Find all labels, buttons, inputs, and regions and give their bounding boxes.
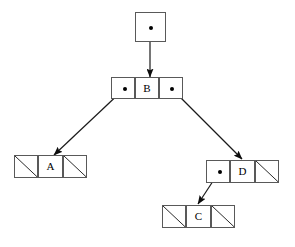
pointer-dot-icon [149, 26, 153, 30]
node-c-value-cell[interactable]: C [186, 205, 210, 228]
node-d-value-label: D [238, 166, 246, 177]
tree-node-a[interactable]: A [14, 155, 87, 178]
node-d-left-pointer-cell[interactable] [206, 160, 230, 183]
root-pointer-cell[interactable] [135, 12, 166, 42]
node-b-value-label: B [143, 83, 151, 94]
edge-B-right-to-D [172, 89, 242, 159]
node-a-value-label: A [46, 161, 54, 172]
null-slash-icon [256, 161, 278, 182]
node-c-right-null-cell[interactable] [211, 205, 235, 228]
pointer-dot-icon [170, 87, 174, 91]
pointer-dot-icon [123, 87, 127, 91]
tree-diagram-canvas: B A D [0, 0, 295, 247]
node-d-right-null-cell[interactable] [255, 160, 279, 183]
node-b-value-cell[interactable]: B [135, 77, 159, 99]
tree-node-b[interactable]: B [111, 77, 183, 99]
node-b-left-pointer-cell[interactable] [111, 77, 135, 99]
null-slash-icon [212, 206, 234, 227]
root-pointer-box[interactable] [135, 12, 166, 42]
node-c-left-null-cell[interactable] [162, 205, 186, 228]
node-a-left-null-cell[interactable] [14, 155, 38, 178]
null-slash-icon [15, 156, 37, 177]
null-slash-icon [64, 156, 86, 177]
node-a-value-cell[interactable]: A [38, 155, 62, 178]
node-a-right-null-cell[interactable] [63, 155, 87, 178]
null-slash-icon [163, 206, 185, 227]
node-d-value-cell[interactable]: D [230, 160, 254, 183]
node-b-right-pointer-cell[interactable] [159, 77, 183, 99]
pointer-dot-icon [218, 170, 222, 174]
tree-node-d[interactable]: D [206, 160, 279, 183]
node-c-value-label: C [195, 211, 203, 222]
tree-node-c[interactable]: C [162, 205, 235, 228]
